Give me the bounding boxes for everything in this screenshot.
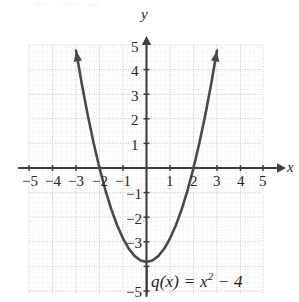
y-tick-label-2: 2 — [131, 113, 139, 128]
coordinate-plane — [0, 0, 299, 302]
x-tick-label-neg4: −4 — [45, 174, 61, 189]
x-tick-label-1: 1 — [166, 174, 174, 189]
y-tick-label-1: 1 — [131, 138, 139, 153]
x-tick-label-neg2: −2 — [92, 174, 108, 189]
equation-base: x — [200, 272, 208, 291]
y-tick-label-neg5: −5 — [126, 285, 142, 300]
x-tick-label-neg3: −3 — [68, 174, 84, 189]
y-axis-label: y — [141, 7, 148, 22]
equation-equals: = — [184, 272, 196, 291]
x-axis-label: x — [287, 160, 294, 175]
y-tick-label-neg2: −2 — [126, 212, 142, 227]
equation-lhs: q(x) — [151, 272, 179, 291]
equation-constant: 4 — [234, 272, 243, 291]
x-tick-label-5: 5 — [259, 174, 267, 189]
equation-exponent: 2 — [208, 270, 214, 282]
x-tick-label-4: 4 — [237, 174, 245, 189]
y-tick-label-4: 4 — [131, 64, 139, 79]
equation-operator: − — [218, 272, 230, 291]
y-tick-label-neg1: −1 — [126, 187, 142, 202]
x-tick-label-3: 3 — [213, 174, 221, 189]
y-tick-label-3: 3 — [131, 89, 139, 104]
y-tick-label-5: 5 — [131, 40, 139, 55]
y-tick-label-neg3: −3 — [126, 236, 142, 251]
graph-figure: y x −5 −4 −3 −2 −1 1 2 3 4 5 5 4 3 2 1 −… — [0, 0, 299, 302]
x-tick-label-2: 2 — [190, 174, 198, 189]
function-equation-label: q(x) = x2 − 4 — [151, 271, 243, 290]
x-tick-label-neg5: −5 — [22, 174, 38, 189]
